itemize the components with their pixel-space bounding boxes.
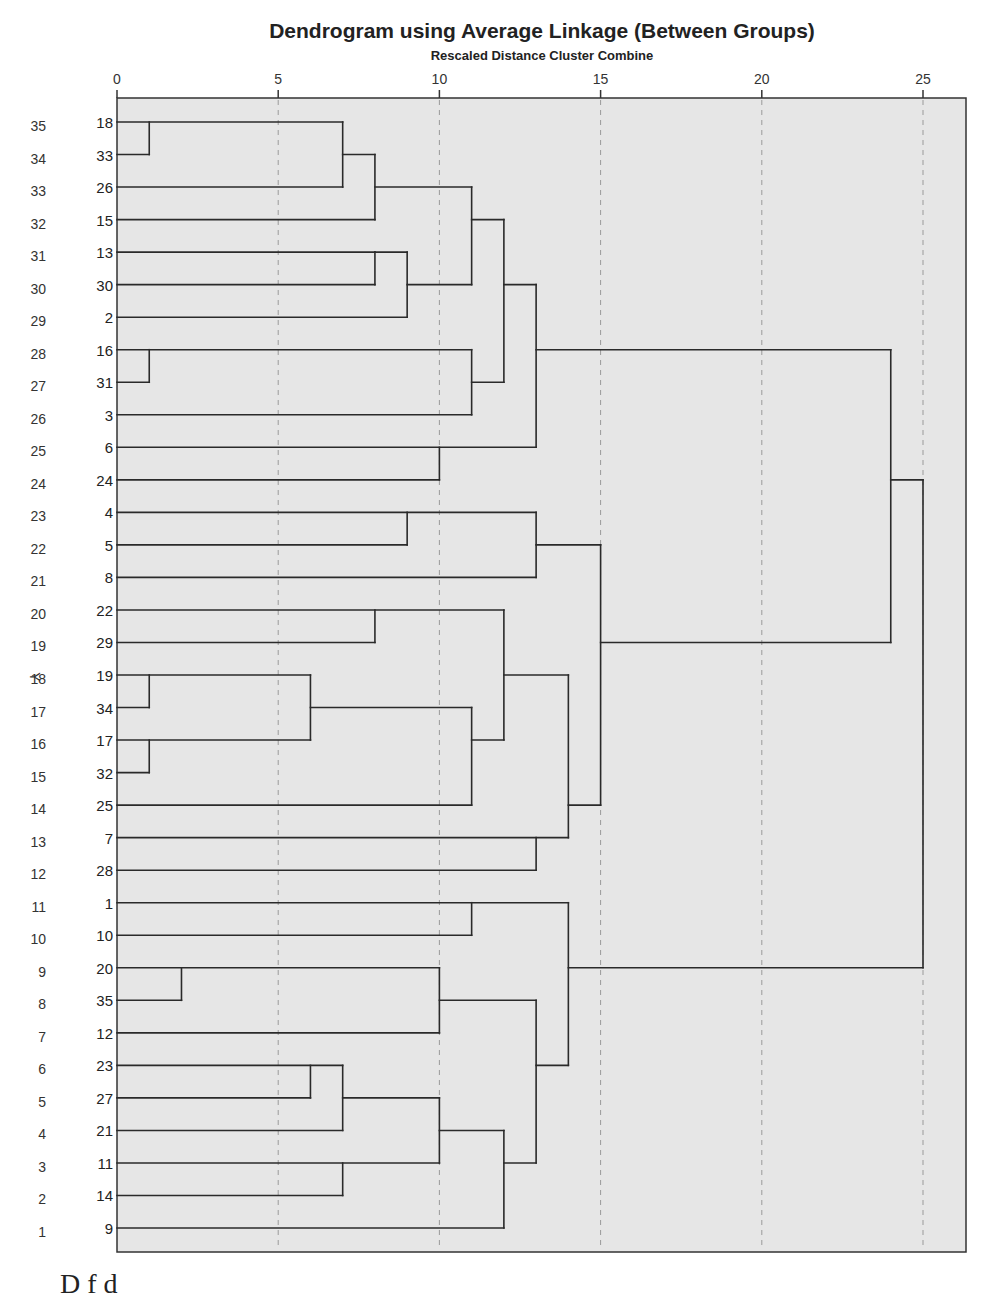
leaf-label: 18 [96, 114, 113, 131]
leaf-label: 4 [105, 504, 113, 521]
row-index-label: 23 [30, 508, 46, 524]
row-index-label: 33 [30, 183, 46, 199]
row-index-label: 2 [38, 1191, 46, 1207]
x-tick-label: 0 [113, 71, 121, 87]
leaf-label: 35 [96, 992, 113, 1009]
leaf-label: 5 [105, 537, 113, 554]
leaf-label: 22 [96, 602, 113, 619]
x-tick-label: 5 [274, 71, 282, 87]
row-index-label: 35 [30, 118, 46, 134]
leaf-label: 32 [96, 765, 113, 782]
row-index-label: 20 [30, 606, 46, 622]
row-index-label: 28 [30, 346, 46, 362]
row-index-label: 10 [30, 931, 46, 947]
x-tick-label: 10 [432, 71, 448, 87]
row-index-label: 13 [30, 834, 46, 850]
leaf-label: 33 [96, 147, 113, 164]
leaf-label: 6 [105, 439, 113, 456]
x-axis: 0510152025 [113, 71, 931, 98]
row-index-label: 5 [38, 1094, 46, 1110]
row-index-label: 29 [30, 313, 46, 329]
leaf-label: 8 [105, 569, 113, 586]
leaf-label: 13 [96, 244, 113, 261]
row-index-label: 6 [38, 1061, 46, 1077]
row-index-label: 19 [30, 638, 46, 654]
row-index-label: 25 [30, 443, 46, 459]
row-index-label: 27 [30, 378, 46, 394]
leaf-label: 16 [96, 342, 113, 359]
leaf-label: 20 [96, 960, 113, 977]
leaf-label: 24 [96, 472, 113, 489]
row-index-label: 26 [30, 411, 46, 427]
row-index-label: 16 [30, 736, 46, 752]
row-index-label: 1 [38, 1224, 46, 1240]
row-index-label: 4 [38, 1126, 46, 1142]
leaf-label: 15 [96, 212, 113, 229]
leaf-label: 31 [96, 374, 113, 391]
row-index-label: 30 [30, 281, 46, 297]
chart-subtitle: Rescaled Distance Cluster Combine [431, 48, 654, 63]
row-index-label: 8 [38, 996, 46, 1012]
leaf-label: 29 [96, 634, 113, 651]
row-index-label: 14 [30, 801, 46, 817]
cropped-caption-text: D f d [60, 1268, 118, 1297]
row-index-label: 34 [30, 151, 46, 167]
row-index-label: 11 [31, 899, 46, 915]
row-index-label: 31 [30, 248, 46, 264]
row-index-label: 9 [38, 964, 46, 980]
leaf-label: 2 [105, 309, 113, 326]
leaf-label: 7 [105, 830, 113, 847]
x-tick-label: 25 [915, 71, 931, 87]
row-index-label: 32 [30, 216, 46, 232]
leaf-label: 34 [96, 700, 113, 717]
row-index-label: 3 [38, 1159, 46, 1175]
leaf-label: 21 [96, 1122, 113, 1139]
leaf-labels: 1833261513302163136244582229193417322572… [96, 114, 113, 1237]
leaf-label: 14 [96, 1187, 113, 1204]
leaf-label: 17 [96, 732, 113, 749]
leaf-label: 3 [105, 407, 113, 424]
y-axis-label: Y [27, 672, 43, 682]
x-tick-label: 15 [593, 71, 609, 87]
leaf-label: 11 [97, 1155, 113, 1172]
row-index-label: 7 [38, 1029, 46, 1045]
leaf-label: 10 [96, 927, 113, 944]
leaf-label: 19 [96, 667, 113, 684]
row-index-label: 15 [30, 769, 46, 785]
row-index-label: 17 [30, 704, 46, 720]
row-index-label: 12 [30, 866, 46, 882]
leaf-label: 26 [96, 179, 113, 196]
row-index-label: 22 [30, 541, 46, 557]
x-tick-label: 20 [754, 71, 770, 87]
leaf-label: 25 [96, 797, 113, 814]
leaf-label: 23 [96, 1057, 113, 1074]
leaf-label: 9 [105, 1220, 113, 1237]
leaf-label: 1 [105, 895, 113, 912]
leaf-label: 12 [96, 1025, 113, 1042]
row-index-label: 24 [30, 476, 46, 492]
chart-title: Dendrogram using Average Linkage (Betwee… [269, 19, 815, 42]
leaf-label: 27 [96, 1090, 113, 1107]
leaf-label: 28 [96, 862, 113, 879]
row-index-label: 21 [30, 573, 46, 589]
leaf-label: 30 [96, 277, 113, 294]
